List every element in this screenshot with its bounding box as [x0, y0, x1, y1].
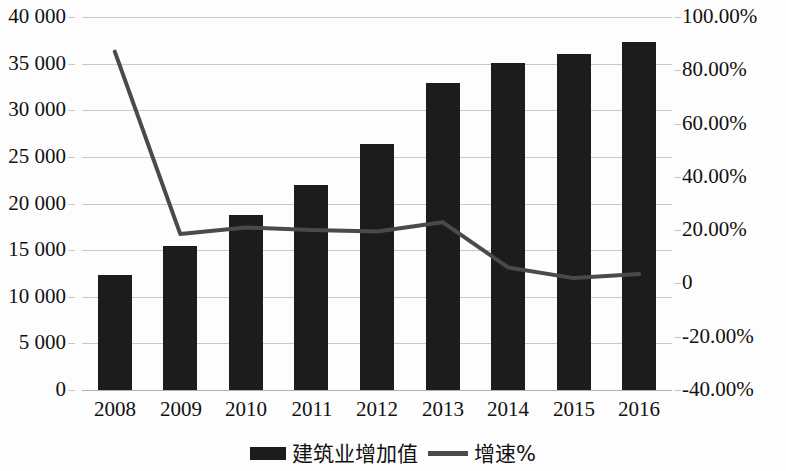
- y-axis-left-tick: 40 000: [8, 6, 66, 27]
- legend-item-line: 增速%: [428, 442, 536, 466]
- y-axis-right-tick-mark: [674, 390, 681, 391]
- y-axis-left-tick: 10 000: [8, 286, 66, 307]
- x-axis-tick: 2008: [82, 396, 148, 422]
- y-axis-left: 05 00010 00015 00020 00025 00030 00035 0…: [0, 0, 74, 471]
- y-axis-left-tick-mark: [68, 64, 75, 65]
- y-axis-right-tick-mark: [674, 337, 681, 338]
- y-axis-right-tick: 80.00%: [682, 59, 747, 80]
- y-axis-left-tick-mark: [68, 157, 75, 158]
- y-axis-left-tick-mark: [68, 297, 75, 298]
- y-axis-left-tick-mark: [68, 250, 75, 251]
- x-axis-tick: 2014: [475, 396, 541, 422]
- x-axis-tick: 2009: [148, 396, 214, 422]
- x-axis-tick: 2012: [344, 396, 410, 422]
- growth-rate-line: [115, 52, 639, 279]
- y-axis-left-tick-mark: [68, 343, 75, 344]
- y-axis-left-tick-mark: [68, 204, 75, 205]
- y-axis-right-tick-mark: [674, 124, 681, 125]
- legend-item-bar: 建筑业增加值: [250, 442, 418, 466]
- x-axis: 200820092010201120122013201420152016: [82, 396, 672, 428]
- chart-legend: 建筑业增加值 增速%: [0, 436, 786, 471]
- gridline: [82, 390, 672, 391]
- y-axis-left-tick: 5 000: [19, 332, 66, 353]
- y-axis-right-tick-mark: [674, 283, 681, 284]
- y-axis-right-tick: 20.00%: [682, 219, 747, 240]
- y-axis-right-tick: -20.00%: [682, 326, 754, 347]
- y-axis-right: -40.00%-20.00%020.00%40.00%60.00%80.00%1…: [682, 0, 786, 471]
- x-axis-tick: 2016: [606, 396, 672, 422]
- plot-area: [82, 17, 672, 390]
- bar-swatch-icon: [250, 447, 286, 460]
- line-swatch-icon: [428, 451, 468, 456]
- legend-label-bar: 建筑业增加值: [292, 442, 418, 466]
- line-series: [82, 17, 672, 390]
- x-axis-tick: 2010: [213, 396, 279, 422]
- y-axis-left-tick: 20 000: [8, 193, 66, 214]
- y-axis-left-tick: 0: [56, 379, 67, 400]
- y-axis-right-tick-mark: [674, 177, 681, 178]
- x-axis-tick: 2013: [410, 396, 476, 422]
- y-axis-right-tick: 100.00%: [682, 6, 757, 27]
- y-axis-left-tick: 30 000: [8, 99, 66, 120]
- y-axis-right-tick: 0: [682, 272, 693, 293]
- legend-label-line: 增速%: [474, 442, 536, 466]
- y-axis-left-tick-mark: [68, 110, 75, 111]
- chart-container: 05 00010 00015 00020 00025 00030 00035 0…: [0, 0, 786, 471]
- y-axis-right-tick: 40.00%: [682, 166, 747, 187]
- y-axis-right-tick: -40.00%: [682, 379, 754, 400]
- x-axis-tick: 2015: [541, 396, 607, 422]
- y-axis-right-tick: 60.00%: [682, 113, 747, 134]
- y-axis-right-tick-mark: [674, 17, 681, 18]
- y-axis-left-tick: 35 000: [8, 53, 66, 74]
- y-axis-right-tick-mark: [674, 70, 681, 71]
- y-axis-left-tick: 25 000: [8, 146, 66, 167]
- y-axis-left-tick-mark: [68, 17, 75, 18]
- y-axis-left-tick: 15 000: [8, 239, 66, 260]
- x-axis-tick: 2011: [279, 396, 345, 422]
- y-axis-left-tick-mark: [68, 390, 75, 391]
- y-axis-right-tick-mark: [674, 230, 681, 231]
